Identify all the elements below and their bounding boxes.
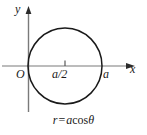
y-axis-label: y <box>15 3 20 15</box>
equation-function: cos <box>72 113 88 127</box>
equation-equals: = <box>57 113 66 127</box>
x-axis-label: x <box>130 63 135 75</box>
equation-variable: θ <box>88 113 94 127</box>
origin-label: O <box>16 68 25 80</box>
tick-label-a: a <box>103 68 109 80</box>
y-axis-arrow-icon <box>26 6 32 14</box>
polar-circle-figure: y x O a/2 a r=acosθ <box>0 0 147 135</box>
tick-label-a-over-2: a/2 <box>52 68 67 80</box>
equation-caption: r=acosθ <box>0 113 147 128</box>
